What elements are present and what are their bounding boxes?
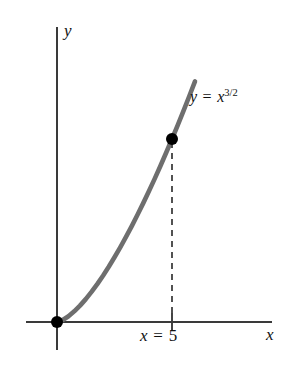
- plot-canvas: [0, 0, 298, 367]
- x-axis-label: x: [266, 326, 274, 343]
- curve-x-power-three-halves: [57, 81, 195, 322]
- x-equals-5-operator: =: [148, 326, 169, 345]
- point-origin: [51, 316, 63, 328]
- curve-equation-exponent: 3/2: [224, 87, 237, 98]
- curve-equation-label: y = x3/2: [190, 88, 238, 105]
- y-axis-label: y: [64, 22, 72, 39]
- x-equals-5-label: x = 5: [140, 327, 177, 344]
- point-at-x-equals-5: [166, 133, 178, 145]
- graph-figure: y x x = 5 y = x3/2: [0, 0, 298, 367]
- x-equals-5-number: 5: [169, 326, 178, 345]
- curve-equation-operator: =: [197, 88, 217, 105]
- x-equals-5-variable: x: [140, 326, 148, 345]
